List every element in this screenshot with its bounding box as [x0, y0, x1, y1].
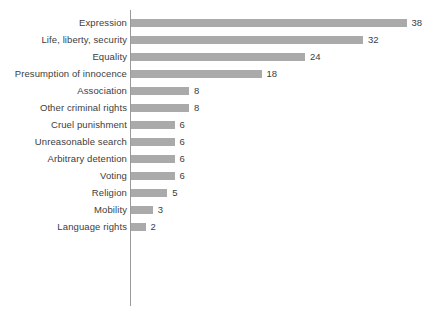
bar-category-label: Voting — [0, 170, 127, 181]
bar-category-label: Religion — [0, 187, 127, 198]
bar-container: 8 — [131, 82, 199, 99]
bar — [131, 189, 167, 197]
bar-row: Arbitrary detention6 — [0, 150, 438, 167]
bar-value-label: 32 — [368, 34, 379, 45]
bar-value-label: 38 — [412, 17, 423, 28]
bar-value-label: 2 — [151, 221, 156, 232]
bar-category-label: Association — [0, 85, 127, 96]
bar-row: Unreasonable search6 — [0, 133, 438, 150]
bar — [131, 53, 305, 61]
bar-category-label: Arbitrary detention — [0, 153, 127, 164]
bar-row: Association8 — [0, 82, 438, 99]
bar-container: 2 — [131, 218, 156, 235]
bar-category-label: Unreasonable search — [0, 136, 127, 147]
bar-container: 6 — [131, 116, 185, 133]
bar-container: 5 — [131, 184, 178, 201]
bar-category-label: Cruel punishment — [0, 119, 127, 130]
bar-row: Mobility3 — [0, 201, 438, 218]
bar-container: 38 — [131, 14, 422, 31]
bar-category-label: Equality — [0, 51, 127, 62]
bar-value-label: 24 — [310, 51, 321, 62]
bar-value-label: 6 — [180, 153, 185, 164]
bar-value-label: 3 — [158, 204, 163, 215]
bar-container: 32 — [131, 31, 379, 48]
bar-row: Other criminal rights8 — [0, 99, 438, 116]
bar — [131, 223, 146, 231]
bar-chart: Expression38Life, liberty, security32Equ… — [0, 0, 438, 321]
bar-row: Cruel punishment6 — [0, 116, 438, 133]
bar-category-label: Life, liberty, security — [0, 34, 127, 45]
bar-category-label: Language rights — [0, 221, 127, 232]
bar-value-label: 18 — [267, 68, 278, 79]
bar-value-label: 8 — [194, 102, 199, 113]
bar — [131, 155, 175, 163]
bar-row: Equality24 — [0, 48, 438, 65]
plot-area: Expression38Life, liberty, security32Equ… — [0, 0, 438, 321]
bar — [131, 70, 262, 78]
bar — [131, 121, 175, 129]
bar — [131, 87, 189, 95]
bar-row: Expression38 — [0, 14, 438, 31]
bar-row: Religion5 — [0, 184, 438, 201]
bar-container: 24 — [131, 48, 321, 65]
bar-container: 6 — [131, 167, 185, 184]
bar-row: Life, liberty, security32 — [0, 31, 438, 48]
bar-container: 6 — [131, 133, 185, 150]
bar-category-label: Mobility — [0, 204, 127, 215]
bar-container: 8 — [131, 99, 199, 116]
bar-row: Voting6 — [0, 167, 438, 184]
bar — [131, 172, 175, 180]
bar-container: 3 — [131, 201, 163, 218]
bar-row: Language rights2 — [0, 218, 438, 235]
bar — [131, 138, 175, 146]
bar-container: 18 — [131, 65, 277, 82]
bar-container: 6 — [131, 150, 185, 167]
bar — [131, 19, 407, 27]
bar-category-label: Expression — [0, 17, 127, 28]
bar-category-label: Presumption of innocence — [0, 68, 127, 79]
bar — [131, 104, 189, 112]
bar-value-label: 6 — [180, 170, 185, 181]
bar-value-label: 6 — [180, 136, 185, 147]
bar-category-label: Other criminal rights — [0, 102, 127, 113]
bar — [131, 36, 363, 44]
bar-row: Presumption of innocence18 — [0, 65, 438, 82]
bar — [131, 206, 153, 214]
bar-value-label: 5 — [172, 187, 177, 198]
bar-value-label: 6 — [180, 119, 185, 130]
bar-value-label: 8 — [194, 85, 199, 96]
